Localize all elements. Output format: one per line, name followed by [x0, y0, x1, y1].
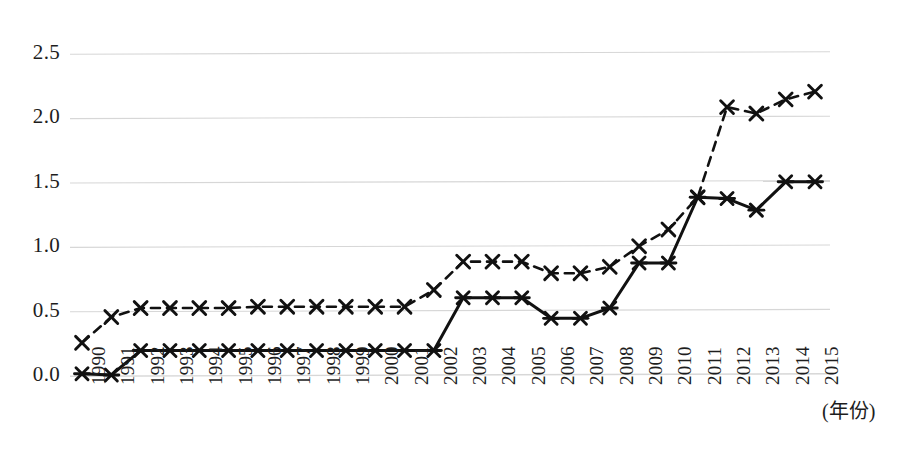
- data-point-marker: [690, 191, 705, 203]
- x-tick-label: 2003: [470, 346, 489, 385]
- x-tick-label: 2013: [763, 346, 782, 385]
- series-group: [75, 85, 823, 381]
- data-point-marker: [457, 255, 470, 268]
- data-point-marker: [515, 255, 528, 268]
- x-tick-label: 2009: [646, 346, 665, 385]
- data-point-marker: [662, 223, 675, 236]
- x-tick-label: 2010: [675, 346, 694, 385]
- data-point-marker: [456, 292, 471, 304]
- data-point-marker: [485, 292, 500, 304]
- x-tick-label: 1993: [177, 346, 196, 385]
- x-tick-label: 1997: [294, 346, 313, 385]
- y-tick-label: 1.0: [14, 235, 60, 256]
- y-tick-label: 2.0: [14, 106, 60, 127]
- y-tick-label: 1.5: [14, 171, 60, 192]
- x-tick-label: 2014: [793, 346, 812, 385]
- x-tick-label: 2007: [587, 346, 606, 385]
- gridline: [70, 309, 830, 311]
- x-tick-label: 2005: [529, 346, 548, 385]
- x-tick-label: 1994: [206, 346, 225, 385]
- x-tick-label: 2002: [441, 346, 460, 385]
- data-point-marker: [514, 292, 529, 304]
- x-tick-label: 2006: [558, 346, 577, 385]
- data-point-marker: [633, 240, 646, 253]
- data-point-marker: [76, 336, 89, 349]
- x-tick-label: 2004: [499, 346, 518, 385]
- x-tick-label: 2008: [617, 346, 636, 385]
- data-point-marker: [105, 311, 118, 324]
- gridline: [70, 245, 830, 247]
- data-point-marker: [632, 257, 647, 269]
- x-tick-label: 2000: [382, 346, 401, 385]
- y-tick-label: 2.5: [14, 42, 60, 63]
- data-point-marker: [720, 193, 735, 205]
- x-tick-label: 2015: [822, 346, 841, 385]
- series-line: [82, 92, 815, 343]
- gridline: [70, 52, 830, 54]
- data-point-marker: [427, 284, 440, 297]
- data-point-marker: [544, 312, 559, 324]
- data-point-marker: [749, 204, 764, 216]
- x-tick-label: 2012: [734, 346, 753, 385]
- gridline: [70, 116, 830, 118]
- data-point-marker: [573, 312, 588, 324]
- x-tick-label: 2001: [412, 346, 431, 385]
- data-point-marker: [808, 176, 823, 188]
- x-axis-title: (年份): [822, 401, 875, 421]
- gridlines-group: [70, 52, 830, 376]
- gridline: [70, 181, 830, 183]
- x-tick-label: 1999: [353, 346, 372, 385]
- x-tick-label: 1991: [118, 346, 137, 385]
- x-tick-label: 1996: [265, 346, 284, 385]
- x-tick-label: 1998: [324, 346, 343, 385]
- x-tick-label: 1992: [148, 346, 167, 385]
- x-tick-label: 1990: [89, 346, 108, 385]
- data-point-marker: [661, 257, 676, 269]
- y-tick-label: 0.0: [14, 364, 60, 385]
- chart-container: 0.00.51.01.52.02.5 199019911992199319941…: [0, 0, 902, 451]
- data-point-marker: [778, 176, 793, 188]
- y-tick-label: 0.5: [14, 300, 60, 321]
- data-point-marker: [602, 302, 617, 314]
- x-tick-label: 1995: [236, 346, 255, 385]
- x-tick-label: 2011: [705, 347, 724, 385]
